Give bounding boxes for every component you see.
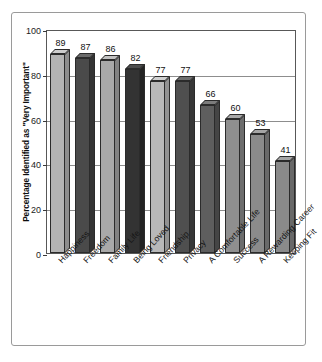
bar-value-label: 86 bbox=[106, 45, 116, 54]
bar-side-face bbox=[90, 53, 95, 253]
bar-value-label: 89 bbox=[56, 39, 66, 48]
plot-area: 100806040200 89878682777766605341 bbox=[46, 30, 296, 254]
bar-side-face bbox=[190, 76, 195, 253]
bar-side-face bbox=[265, 129, 270, 253]
bars-container: 89878682777766605341 bbox=[47, 31, 295, 253]
bar[interactable] bbox=[250, 129, 270, 253]
y-tick-label: 60 bbox=[31, 116, 41, 125]
bar-front-face bbox=[275, 161, 290, 253]
y-tick-label: 40 bbox=[31, 161, 41, 170]
bar[interactable] bbox=[100, 55, 120, 253]
bar-front-face bbox=[125, 69, 140, 253]
y-tick-label: 80 bbox=[31, 71, 41, 80]
bar[interactable] bbox=[200, 100, 220, 253]
bar-chart: Percentage Identified as "Very Important… bbox=[12, 13, 307, 347]
bar[interactable] bbox=[275, 156, 295, 253]
y-tick-label: 100 bbox=[26, 27, 41, 36]
bar-side-face bbox=[290, 156, 295, 253]
figure-frame: Percentage Identified as "Very Important… bbox=[11, 12, 306, 346]
bar-value-label: 41 bbox=[281, 146, 291, 155]
y-axis-title: Percentage Identified as "Very Important… bbox=[18, 30, 34, 254]
bar-value-label: 87 bbox=[81, 43, 91, 52]
bar-value-label: 66 bbox=[206, 90, 216, 99]
bar-side-face bbox=[215, 100, 220, 253]
bar-value-label: 77 bbox=[181, 66, 191, 75]
y-axis-title-text: Percentage Identified as "Very Important… bbox=[21, 62, 31, 222]
bar-front-face bbox=[50, 54, 65, 253]
bar-side-face bbox=[240, 114, 245, 253]
bar[interactable] bbox=[50, 49, 70, 253]
bar-front-face bbox=[75, 58, 90, 253]
bar-value-label: 60 bbox=[231, 104, 241, 113]
bar-front-face bbox=[175, 81, 190, 253]
bar[interactable] bbox=[125, 64, 145, 253]
bar-front-face bbox=[200, 105, 215, 253]
bar[interactable] bbox=[150, 76, 170, 253]
bar-value-label: 53 bbox=[256, 119, 266, 128]
bar-front-face bbox=[250, 134, 265, 253]
bar-side-face bbox=[165, 76, 170, 253]
bar-front-face bbox=[225, 119, 240, 253]
y-tick-mark bbox=[43, 255, 47, 256]
bar-front-face bbox=[150, 81, 165, 253]
bar-value-label: 77 bbox=[156, 66, 166, 75]
bar[interactable] bbox=[225, 114, 245, 253]
bar[interactable] bbox=[175, 76, 195, 253]
bar-front-face bbox=[100, 60, 115, 253]
bar-value-label: 82 bbox=[131, 54, 141, 63]
y-tick-label: 0 bbox=[36, 251, 41, 260]
bar-side-face bbox=[115, 55, 120, 253]
bar-side-face bbox=[140, 64, 145, 253]
bar[interactable] bbox=[75, 53, 95, 253]
y-tick-label: 20 bbox=[31, 206, 41, 215]
bar-side-face bbox=[65, 49, 70, 253]
